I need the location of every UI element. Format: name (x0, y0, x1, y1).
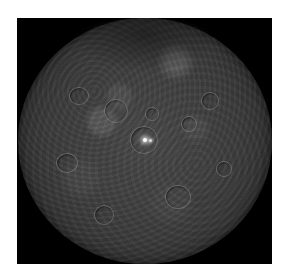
bright-spot (143, 138, 147, 142)
crater (201, 92, 219, 110)
crater (216, 161, 232, 177)
crater (69, 87, 89, 105)
north-terrain (69, 18, 221, 72)
bright-spot-secondary (149, 139, 152, 142)
planet-ceres (18, 18, 272, 264)
crater (145, 107, 159, 121)
crater (181, 116, 197, 132)
image-frame (17, 18, 272, 264)
